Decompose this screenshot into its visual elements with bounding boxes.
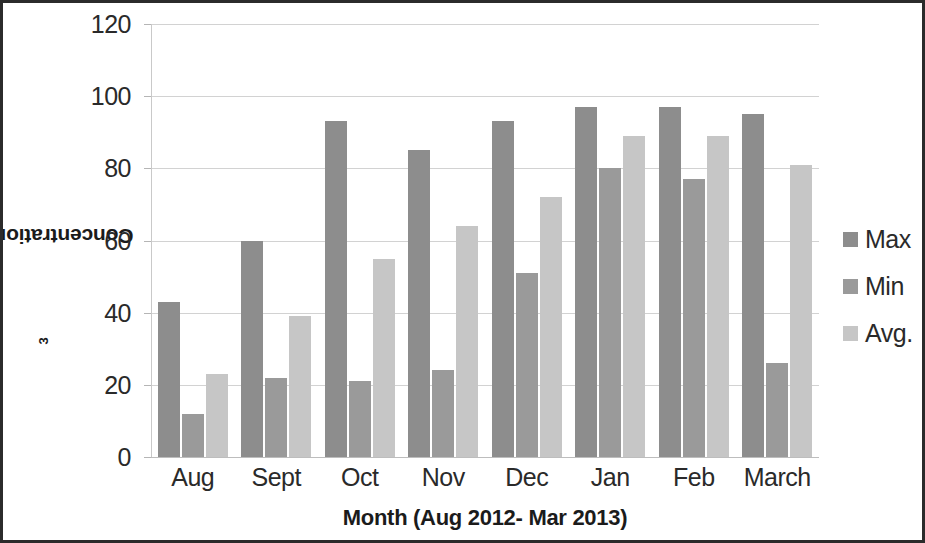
y-axis-tick-label: 40 [104, 298, 131, 327]
y-axis-tick-label: 80 [104, 154, 131, 183]
bar [659, 107, 681, 457]
y-axis-tick-mark [144, 24, 151, 25]
y-axis-tick-mark [144, 96, 151, 97]
x-axis-tick-label: Jan [569, 463, 653, 492]
y-axis-tick-mark [144, 168, 151, 169]
x-axis-title: Month (Aug 2012- Mar 2013) [151, 505, 819, 531]
x-axis-tick-label: Sept [235, 463, 319, 492]
bar [373, 259, 395, 457]
y-axis-tick-mark [144, 313, 151, 314]
y-axis-tick-label: 0 [118, 443, 131, 472]
bar [182, 414, 204, 457]
bar [742, 114, 764, 457]
legend-item: Min [843, 263, 923, 310]
chart-legend: MaxMinAvg. [843, 216, 923, 357]
x-axis-tick-label: Aug [151, 463, 235, 492]
y-axis-tick-mark [144, 241, 151, 242]
y-axis-tick-label: 120 [91, 10, 131, 39]
bar-group [569, 24, 653, 457]
bar [289, 316, 311, 457]
y-axis-title-exponent: 3 [37, 337, 52, 344]
y-axis-tick-label: 20 [104, 370, 131, 399]
legend-swatch-icon [843, 279, 858, 294]
bar [575, 107, 597, 457]
legend-label: Avg. [865, 319, 913, 348]
legend-label: Max [865, 225, 911, 254]
y-axis-tick-label: 100 [91, 82, 131, 111]
bar-group [485, 24, 569, 457]
bar-group [652, 24, 736, 457]
y-axis-tick-labels: 120100806040200 [65, 3, 141, 468]
gridline [151, 457, 819, 458]
bar-group [235, 24, 319, 457]
bar [325, 121, 347, 457]
bar [349, 381, 371, 457]
bar-group [402, 24, 486, 457]
legend-item: Max [843, 216, 923, 263]
legend-swatch-icon [843, 326, 858, 341]
bar [408, 150, 430, 457]
bar-group [736, 24, 820, 457]
plot-area [151, 24, 819, 457]
y-axis-tick-mark [144, 385, 151, 386]
bar-group [151, 24, 235, 457]
bar [265, 378, 287, 457]
y-axis-tick-label: 60 [104, 226, 131, 255]
bar [766, 363, 788, 457]
y-axis-tick-mark [144, 457, 151, 458]
bar-groups [151, 24, 819, 457]
bar [599, 168, 621, 457]
legend-swatch-icon [843, 232, 858, 247]
bar [241, 241, 263, 458]
bar-group [318, 24, 402, 457]
x-axis-tick-label: Nov [402, 463, 486, 492]
legend-item: Avg. [843, 310, 923, 357]
bar [456, 226, 478, 457]
x-axis-tick-label: Oct [318, 463, 402, 492]
legend-label: Min [865, 272, 904, 301]
x-axis-tick-label: Dec [485, 463, 569, 492]
chart-figure: Concentration in µg/m3 120100806040200 A… [0, 0, 925, 543]
bar [432, 370, 454, 457]
bar [623, 136, 645, 457]
x-axis-tick-labels: AugSeptOctNovDecJanFebMarch [151, 463, 819, 492]
bar [707, 136, 729, 457]
x-axis-tick-label: March [736, 463, 820, 492]
x-axis-tick-label: Feb [652, 463, 736, 492]
bar [683, 179, 705, 457]
bar [492, 121, 514, 457]
bar [540, 197, 562, 457]
bar [790, 165, 812, 457]
bar [206, 374, 228, 457]
bar [516, 273, 538, 457]
bar [158, 302, 180, 457]
y-axis-title: Concentration in µg/m3 [11, 3, 63, 468]
